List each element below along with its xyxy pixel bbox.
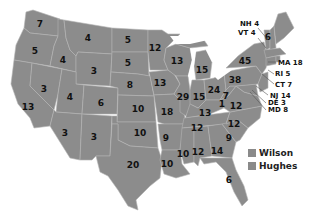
- callout-vt: VT 4: [238, 29, 256, 37]
- ev-label-nv: 3: [41, 84, 47, 94]
- ev-label-al: 12: [192, 147, 205, 157]
- callout-md: MD 8: [268, 106, 288, 114]
- ev-label-fl: 6: [226, 175, 232, 185]
- ev-label-nm: 3: [91, 132, 97, 142]
- ev-label-wa: 7: [37, 19, 43, 29]
- legend-label-hughes: Hughes: [259, 161, 297, 171]
- ev-label-or: 5: [32, 46, 38, 56]
- callout-ct: CT 7: [275, 81, 292, 89]
- ev-label-pa: 38: [229, 75, 242, 85]
- callout-ri: RI 5: [275, 70, 290, 78]
- legend: Wilson Hughes: [248, 147, 297, 173]
- ev-label-az: 3: [62, 128, 68, 138]
- ev-label-ia: 13: [154, 78, 167, 88]
- ev-label-ca: 13: [22, 102, 35, 112]
- ev-label-wy: 3: [91, 66, 97, 76]
- ev-label-sc: 9: [226, 133, 232, 143]
- legend-item-wilson: Wilson: [248, 147, 297, 159]
- state-fl[interactable]: [200, 158, 248, 206]
- state-ct[interactable]: [266, 56, 276, 66]
- ev-label-co: 6: [98, 98, 104, 108]
- callout-ma: MA 18: [278, 59, 303, 67]
- ev-label-ok: 10: [134, 128, 147, 138]
- ev-label-mt: 4: [85, 33, 91, 43]
- ev-label-oh: 24: [208, 85, 221, 95]
- ev-label-tn: 12: [191, 123, 204, 133]
- wilson-swatch-icon: [248, 149, 256, 157]
- ev-label-mn: 12: [149, 43, 162, 53]
- ev-label-wi: 13: [171, 56, 184, 66]
- ev-label-mo: 18: [161, 107, 174, 117]
- ev-label-tx: 20: [127, 160, 140, 170]
- callout-nh: NH 4: [240, 20, 259, 28]
- ev-label-va: 12: [230, 101, 243, 111]
- ev-label-mi: 15: [196, 65, 209, 75]
- ev-label-ar: 9: [163, 133, 169, 143]
- ev-label-ny: 45: [239, 56, 252, 66]
- legend-label-wilson: Wilson: [259, 148, 293, 158]
- us-electoral-map: 7 5 13 4 3 4 3 4 3 6 3 5 5 8 10 10 20 12…: [0, 0, 309, 221]
- states: [11, 10, 294, 210]
- ev-label-nd: 5: [125, 35, 131, 45]
- ev-label-ky: 13: [199, 108, 212, 118]
- ev-label-ga: 14: [211, 146, 224, 156]
- ev-label-sd: 5: [125, 58, 131, 68]
- ev-label-id: 4: [60, 55, 66, 65]
- ev-label-il: 29: [177, 92, 190, 102]
- leader-ri: [268, 70, 274, 74]
- hughes-swatch-icon: [248, 162, 256, 170]
- legend-item-hughes: Hughes: [248, 160, 297, 172]
- ev-label-in: 15: [193, 92, 206, 102]
- ev-label-md-inline: 1: [219, 99, 225, 109]
- state-me[interactable]: [274, 12, 294, 44]
- ev-label-la: 10: [161, 159, 174, 169]
- ev-label-ks: 10: [132, 104, 145, 114]
- ev-label-ut: 4: [67, 92, 73, 102]
- ev-label-ms: 10: [177, 149, 190, 159]
- ev-label-ne: 8: [127, 80, 133, 90]
- ev-label-nc: 12: [228, 119, 241, 129]
